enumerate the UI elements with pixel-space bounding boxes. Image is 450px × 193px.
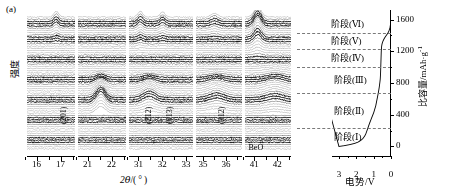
voltage-tick (391, 156, 392, 159)
x-axis-minor-tick (150, 157, 151, 160)
xrd-pattern-canvas (245, 10, 291, 156)
xrd-pattern-canvas (27, 10, 75, 156)
x-axis-tick-label: 35 (193, 159, 213, 169)
x-axis-tick-label: 21 (78, 159, 98, 169)
peak-label-201: (201) (59, 107, 68, 124)
capacity-tick-label: 1600 (396, 14, 414, 24)
x-axis-minor-tick (237, 157, 238, 160)
capacity-tick (390, 83, 394, 84)
peak-label-BeO: BeO (249, 143, 264, 152)
x-axis-tick-label: 31 (128, 159, 148, 169)
capacity-tick-label: 800 (396, 77, 410, 87)
x-axis-minor-tick (174, 157, 175, 160)
x-axis-tick-label: 36 (216, 159, 236, 169)
stage-label-4: 阶段(Ⅳ) (331, 51, 364, 64)
capacity-minor-tick (390, 35, 392, 36)
xrd-panel-seg3 (129, 10, 193, 156)
x-axis-minor-tick (73, 157, 74, 160)
peak-label-013: (013) (165, 107, 174, 124)
capacity-axis-title: 比容量/mAh·g-1 (416, 27, 429, 127)
stage-label-3: 阶段(Ⅲ) (334, 73, 367, 86)
stage-label-2: 阶段(Ⅱ) (334, 104, 364, 117)
xrd-panel-seg5 (245, 10, 291, 156)
peak-label-212: (212) (144, 107, 153, 124)
capacity-tick-label: 0 (396, 140, 401, 150)
x-axis-tick-label: 41 (244, 159, 264, 169)
stage-label-5: 阶段(Ⅴ) (331, 34, 362, 47)
x-axis-tick-label: 17 (51, 159, 71, 169)
capacity-axis-exponent: -1 (416, 46, 424, 52)
stage-label-6: 阶段(Ⅵ) (331, 17, 364, 30)
panel-label-a: (a) (6, 4, 16, 14)
capacity-minor-tick (390, 131, 392, 132)
x-axis-minor-tick (289, 157, 290, 160)
xrd-y-axis-title: 强度 (8, 47, 21, 91)
voltage-minor-tick (348, 156, 349, 158)
stage-divider-2 (297, 93, 391, 94)
xrd-pattern-canvas (78, 10, 126, 156)
xrd-panel-seg1 (27, 10, 75, 156)
capacity-tick (390, 115, 394, 116)
x-axis-minor-tick (214, 157, 215, 160)
capacity-tick (390, 20, 394, 21)
peak-label-312: (312) (217, 107, 226, 124)
capacity-tick (390, 146, 394, 147)
capacity-minor-tick (390, 67, 392, 68)
xrd-panel-seg2 (78, 10, 126, 156)
voltage-tick (374, 156, 375, 159)
capacity-tick (390, 51, 394, 52)
x-axis-minor-tick (124, 157, 125, 160)
xrd-x-axis-title: 2θ/( ° ) (120, 174, 147, 185)
x-axis-tick-label: 16 (27, 159, 47, 169)
capacity-axis-title-text: 比容量/mAh·g (418, 52, 428, 107)
electrochemical-curve-plot: 3210040080012001600 阶段(Ⅰ)阶段(Ⅱ)阶段(Ⅲ)阶段(Ⅳ)… (332, 10, 390, 156)
voltage-axis-title: 电势/V (345, 174, 375, 188)
x-axis-tick-label: 42 (267, 159, 287, 169)
xrd-pattern-canvas (129, 10, 193, 156)
stage-divider-4 (297, 49, 391, 50)
voltage-tick (356, 156, 357, 159)
stage-label-1: 阶段(Ⅰ) (334, 130, 362, 143)
stage-divider-3 (297, 67, 391, 68)
capacity-minor-tick (390, 99, 392, 100)
capacity-tick-label: 1200 (396, 45, 414, 55)
x-axis-tick-label: 32 (152, 159, 172, 169)
figure-root: (a) 强度 2θ/( ° ) (201)(212)(013)(312)BeO … (0, 0, 450, 193)
xrd-panel-seg4 (196, 10, 242, 156)
xrd-pattern-canvas (196, 10, 242, 156)
x-axis-tick-label: 22 (102, 159, 122, 169)
voltage-minor-tick (382, 156, 383, 158)
voltage-tick (339, 156, 340, 159)
voltage-minor-tick (365, 156, 366, 158)
voltage-tick-label: 0 (382, 169, 400, 179)
capacity-tick-label: 400 (396, 109, 410, 119)
